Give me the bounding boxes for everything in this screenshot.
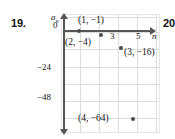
gridline-horizontal (62, 17, 159, 18)
data-point (131, 117, 135, 121)
gridline-horizontal (62, 101, 159, 102)
gridline-horizontal (62, 118, 159, 119)
x-tick-label-5: 5 (136, 31, 141, 41)
problem-number-20: 20 (163, 17, 175, 29)
gridline-horizontal (62, 84, 159, 85)
data-point-label: (1, −1) (78, 15, 104, 25)
data-point (77, 29, 81, 33)
data-point (119, 46, 123, 50)
data-point-label: (4, −64) (78, 113, 109, 123)
y-axis-down-arrow-icon (60, 129, 68, 135)
gridline-horizontal (62, 67, 159, 68)
x-axis-label: n (152, 31, 157, 41)
data-point-label: (3, −16) (124, 47, 155, 57)
exercise-figure: 19. 20 an n 0 −24 −48 3 5 (1, −1) (2, −4… (0, 0, 175, 139)
x-tick-label-3: 3 (110, 31, 115, 41)
data-point-label: (2, −4) (65, 37, 91, 47)
y-axis-up-arrow-icon (60, 13, 68, 19)
data-point (99, 33, 103, 37)
problem-number-19: 19. (11, 17, 26, 29)
y-axis-line (63, 18, 65, 130)
y-tick-label-0: 0 (53, 20, 58, 30)
y-tick-label-minus24: −24 (37, 62, 51, 72)
y-tick-label-minus48: −48 (37, 92, 51, 102)
